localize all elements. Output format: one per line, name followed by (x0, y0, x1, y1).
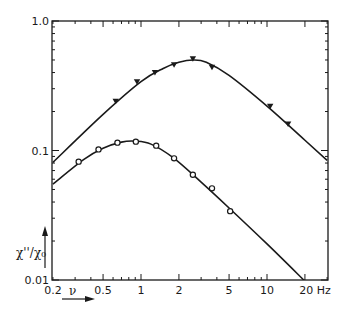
open-circle-marker (154, 143, 159, 148)
data-markers (76, 56, 291, 213)
lower-fit-curve (53, 141, 305, 281)
open-circle-marker (76, 159, 81, 164)
y-tick-label: 1.0 (32, 15, 50, 28)
x-tick-label: 20 Hz (299, 284, 331, 297)
filled-triangle-marker (190, 56, 196, 62)
y-axis-title: χ''/χ₀ (16, 246, 46, 260)
chart: 0.20.51251020 Hz0.010.11.0 χ''/χ₀ ν (0, 0, 349, 309)
tick-labels: 0.20.51251020 Hz0.010.11.0 (25, 15, 331, 297)
open-circle-marker (133, 139, 138, 144)
open-circle-marker (115, 140, 120, 145)
fit-curves (53, 60, 327, 281)
open-circle-marker (171, 156, 176, 161)
upper-fit-curve (53, 60, 327, 162)
y-tick-label: 0.01 (25, 274, 50, 287)
x-tick-label: 10 (260, 284, 274, 297)
filled-triangle-marker (209, 65, 215, 71)
x-tick-label: 5 (226, 284, 233, 297)
x-tick-label: 0.5 (94, 284, 112, 297)
x-axis-title-group: ν (62, 284, 95, 302)
open-circle-marker (96, 147, 101, 152)
open-circle-marker (190, 172, 195, 177)
y-axis-arrowhead-icon (42, 226, 48, 236)
y-tick-label: 0.1 (32, 145, 50, 158)
open-circle-marker (228, 209, 233, 214)
open-circle-marker (209, 186, 214, 191)
x-tick-label: 2 (175, 284, 182, 297)
y-axis-title-group: χ''/χ₀ (16, 226, 48, 268)
x-tick-label: 1 (138, 284, 145, 297)
x-axis-title: ν (69, 284, 76, 298)
